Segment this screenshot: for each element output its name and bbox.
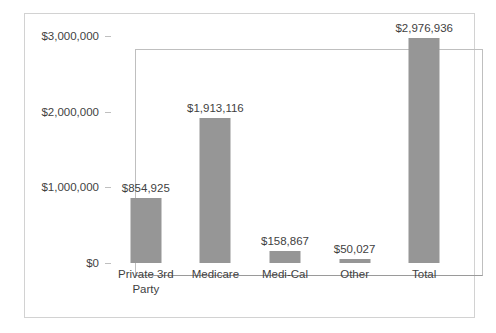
- x-axis-category-label: Private 3rd Party: [111, 267, 181, 297]
- bar-group: $2,976,936: [389, 14, 459, 263]
- bar-chart: $0$1,000,000$2,000,000$3,000,000 $854,92…: [0, 0, 496, 333]
- y-axis-tick-label: $0: [86, 254, 99, 272]
- bar-value-label: $2,976,936: [395, 21, 453, 35]
- y-axis-tick-label: $3,000,000: [41, 27, 99, 45]
- bars-layer: $854,925$1,913,116$158,867$50,027$2,976,…: [111, 14, 459, 263]
- x-axis-category-label: Medicare: [181, 267, 251, 282]
- chart-frame: $0$1,000,000$2,000,000$3,000,000 $854,92…: [24, 13, 475, 318]
- y-axis-tick-label: $1,000,000: [41, 178, 99, 196]
- x-axis-labels: Private 3rd PartyMedicareMedi-CalOtherTo…: [111, 267, 459, 311]
- y-axis-tick-label: $2,000,000: [41, 103, 99, 121]
- bar-group: $50,027: [320, 14, 390, 263]
- x-axis-category-label: Other: [320, 267, 390, 282]
- x-axis-category-label: Total: [389, 267, 459, 282]
- bar[interactable]: [269, 251, 300, 263]
- bar-group: $854,925: [111, 14, 181, 263]
- bar-value-label: $854,925: [122, 181, 170, 195]
- bar-value-label: $1,913,116: [187, 101, 244, 115]
- bar[interactable]: [339, 259, 370, 263]
- bar[interactable]: [200, 118, 231, 263]
- x-axis-category-label: Medi-Cal: [250, 267, 320, 282]
- bar[interactable]: [130, 198, 161, 263]
- bar[interactable]: [409, 38, 440, 263]
- y-axis-tick-mark: [105, 263, 111, 264]
- bar-group: $1,913,116: [181, 14, 251, 263]
- bar-group: $158,867: [250, 14, 320, 263]
- bar-value-label: $50,027: [334, 242, 376, 256]
- bar-value-label: $158,867: [261, 234, 309, 248]
